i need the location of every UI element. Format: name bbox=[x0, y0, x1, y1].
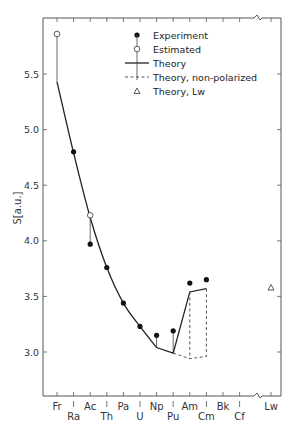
legend-label: Theory bbox=[152, 58, 186, 69]
axis-break-bottom bbox=[254, 393, 262, 398]
experiment-point bbox=[104, 265, 109, 270]
y-ticks: 3.03.54.04.55.05.5 bbox=[24, 69, 281, 358]
experiment-point bbox=[137, 324, 142, 329]
legend-label: Theory, Lw bbox=[152, 86, 205, 97]
x-tick-label: Lw bbox=[264, 401, 278, 412]
experiment-point bbox=[187, 280, 192, 285]
legend-label: Estimated bbox=[153, 44, 201, 55]
legend-theory-lw-marker bbox=[134, 88, 140, 94]
y-tick-label: 5.0 bbox=[24, 124, 39, 135]
experiment-point bbox=[154, 333, 159, 338]
theory-line bbox=[57, 82, 206, 353]
y-tick-label: 5.5 bbox=[24, 69, 39, 80]
chart: 3.03.54.04.55.05.5 FrRaAcThPaUNpPuAmCmBk… bbox=[0, 0, 297, 436]
x-tick-label: Pa bbox=[118, 401, 130, 412]
x-tick-label: Am bbox=[182, 401, 199, 412]
experiment-point bbox=[171, 328, 176, 333]
legend-label: Experiment bbox=[153, 30, 208, 41]
x-tick-label: Bk bbox=[217, 401, 230, 412]
y-tick-label: 3.5 bbox=[24, 291, 39, 302]
estimated-point bbox=[87, 212, 93, 218]
x-tick-label: Th bbox=[100, 411, 113, 422]
axis-break-top bbox=[254, 15, 262, 20]
estimated-point bbox=[54, 31, 60, 37]
x-tick-label: U bbox=[136, 411, 143, 422]
theory-lw-point bbox=[268, 285, 274, 291]
y-tick-label: 4.5 bbox=[24, 180, 39, 191]
legend-label: Theory, non-polarized bbox=[152, 72, 257, 83]
x-tick-label: Cf bbox=[234, 411, 245, 422]
legend: ExperimentEstimatedTheoryTheory, non-pol… bbox=[125, 30, 257, 97]
experiment-point bbox=[71, 149, 76, 154]
experiment-point bbox=[121, 300, 126, 305]
experiment-point bbox=[88, 242, 93, 247]
x-tick-label: Cm bbox=[198, 411, 215, 422]
experiment-point bbox=[204, 277, 209, 282]
y-tick-label: 3.0 bbox=[24, 347, 39, 358]
x-tick-label: Ra bbox=[67, 411, 80, 422]
x-tick-label: Pu bbox=[167, 411, 179, 422]
x-tick-label: Fr bbox=[52, 401, 62, 412]
legend-estimated-marker bbox=[134, 46, 140, 52]
x-tick-label: Ac bbox=[84, 401, 96, 412]
y-axis-label: S[a.u.] bbox=[12, 191, 23, 224]
y-tick-label: 4.0 bbox=[24, 235, 39, 246]
x-tick-label: Np bbox=[150, 401, 164, 412]
